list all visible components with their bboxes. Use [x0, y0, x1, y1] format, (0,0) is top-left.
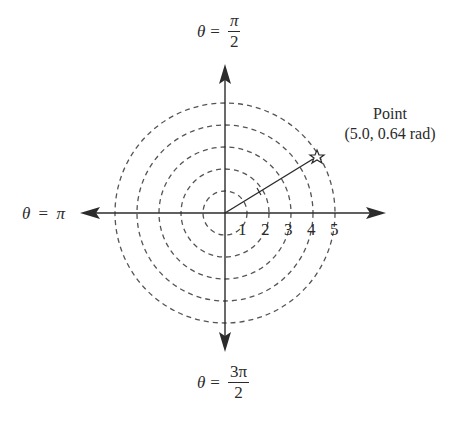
label-theta-pi: θ = π: [22, 205, 65, 222]
pi-symbol: π: [56, 204, 65, 223]
theta-symbol: θ: [197, 23, 205, 40]
denominator: 2: [228, 32, 241, 52]
denominator: 2: [228, 383, 249, 403]
numerator: 3π: [228, 363, 249, 383]
tick-label-3: 3: [284, 221, 293, 238]
point-coordinates: (5.0, 0.64 rad): [320, 124, 458, 144]
label-theta-3pi-over-2: θ = 3π 2: [197, 363, 249, 402]
theta-symbol: θ: [197, 374, 205, 391]
equals-sign: =: [210, 23, 220, 40]
label-theta-pi-over-2: θ = π 2: [197, 12, 240, 51]
fraction: π 2: [228, 12, 241, 51]
tick-label-1: 1: [238, 221, 247, 238]
star-icon: [310, 150, 324, 163]
point-title: Point: [320, 104, 458, 124]
numerator: π: [228, 12, 241, 32]
radius-vector: [225, 159, 313, 213]
tick-label-4: 4: [307, 221, 316, 238]
equals-sign: =: [210, 374, 220, 391]
theta-symbol: θ: [22, 204, 30, 223]
point-label: Point (5.0, 0.64 rad): [320, 104, 458, 144]
equals-sign: =: [39, 204, 49, 223]
tick-label-5: 5: [330, 221, 339, 238]
tick-label-2: 2: [261, 221, 270, 238]
fraction: 3π 2: [228, 363, 249, 402]
